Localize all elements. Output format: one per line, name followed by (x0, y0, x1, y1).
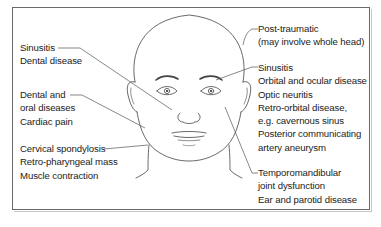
nose-icon (178, 113, 200, 124)
label-line: Post-traumatic (258, 22, 364, 35)
jaw-outline-icon (137, 112, 241, 161)
label-orbital: Sinusitis Orbital and ocular disease Opt… (258, 61, 367, 154)
label-line: Cervical spondylosis (20, 142, 118, 155)
leader-line-orbital (216, 67, 258, 80)
label-tmj: Temporomandibular joint dysfunction Ear … (258, 166, 357, 206)
label-sinus-dental: Sinusitis Dental disease (20, 41, 82, 68)
label-line: oral diseases (20, 101, 75, 114)
label-line: (may involve whole head) (258, 35, 364, 48)
label-line: joint dysfunction (258, 179, 357, 192)
label-line: Optic neuritis (258, 88, 367, 101)
left-eyebrow-icon (156, 76, 178, 80)
label-line: Dental and (20, 88, 75, 101)
leader-line-post-traumatic (243, 29, 258, 45)
leader-line-dental-oral (70, 95, 145, 128)
label-line: Temporomandibular (258, 166, 357, 179)
label-cervical: Cervical spondylosis Retro-pharyngeal ma… (20, 142, 118, 182)
label-line: Posterior communicating (258, 127, 367, 140)
label-line: Orbital and ocular disease (258, 74, 367, 87)
right-ear-icon (241, 82, 251, 112)
head-outline-icon (134, 15, 244, 82)
label-line: e.g. cavernous sinus (258, 114, 367, 127)
left-ear-icon (127, 82, 137, 112)
mouth-icon (172, 132, 206, 134)
neck-right-icon (229, 145, 242, 178)
label-line: Cardiac pain (20, 115, 75, 128)
label-line: Ear and parotid disease (258, 193, 357, 206)
label-dental-oral-cardiac: Dental and oral diseases Cardiac pain (20, 88, 75, 128)
label-line: Retro-pharyngeal mass (20, 155, 118, 168)
label-line: Dental disease (20, 54, 82, 67)
label-line: Muscle contraction (20, 169, 118, 182)
right-eyebrow-icon (200, 76, 222, 80)
label-line: Sinusitis (258, 61, 367, 74)
neck-left-icon (136, 145, 149, 178)
label-post-traumatic: Post-traumatic (may involve whole head) (258, 22, 364, 49)
label-line: artery aneurysm (258, 141, 367, 154)
label-line: Retro-orbital disease, (258, 101, 367, 114)
label-line: Sinusitis (20, 41, 82, 54)
